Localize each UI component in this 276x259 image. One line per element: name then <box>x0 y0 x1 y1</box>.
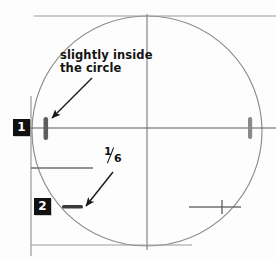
diagram-canvas: slightly inside the circle 1 6 1 2 <box>0 0 276 259</box>
left-inset-tick <box>44 117 49 140</box>
lower-left-sixth-tick <box>62 205 83 209</box>
diagram-vector-layer <box>0 0 276 259</box>
page-background <box>0 0 276 259</box>
right-inset-tick <box>248 117 252 139</box>
